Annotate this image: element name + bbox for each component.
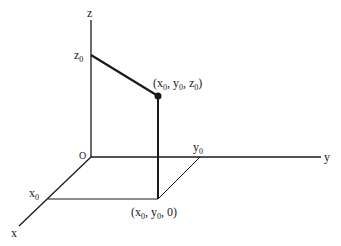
y0-diagonal-line (158, 157, 200, 199)
y0-label: y0 (193, 140, 203, 156)
point-xyz-label: (x0, y0, z0) (153, 76, 202, 92)
y-axis-label: y (324, 150, 330, 164)
z0-label: z0 (74, 48, 83, 64)
point-xy0-label: (x0, y0, 0) (131, 205, 177, 221)
x0-label: x0 (29, 186, 39, 202)
z-axis-label: z (87, 6, 92, 20)
z0-to-point-line (91, 55, 158, 96)
point-dot (155, 93, 162, 100)
x-axis-label: x (11, 226, 17, 240)
coordinate-diagram: z y x O z0 y0 x0 (x0, y0, z0) (x0, y0, 0… (0, 0, 341, 246)
origin-label: O (79, 150, 86, 161)
